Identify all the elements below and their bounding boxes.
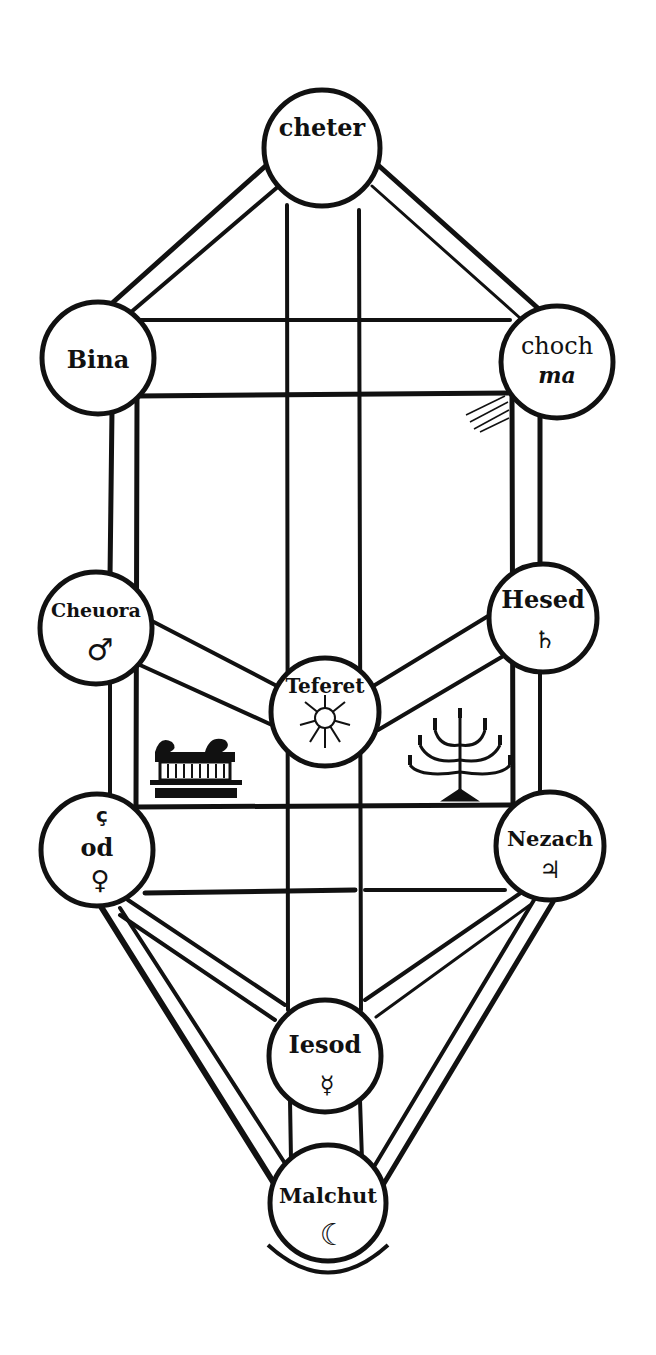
chesed-label: Hesed	[501, 588, 585, 612]
ark-of-covenant-icon	[150, 739, 242, 798]
yesod-label: Iesod	[289, 1033, 362, 1057]
gevurah-circle	[40, 572, 152, 684]
hatching-marks	[466, 396, 509, 432]
chokhmah-label-line2: ma	[538, 364, 576, 386]
netzach-label: Nezach	[507, 828, 593, 849]
saturn-icon: ♄	[534, 628, 556, 652]
mercury-icon: ☿	[320, 1073, 335, 1097]
gevurah-label: Cheuora	[51, 601, 141, 620]
hod-prefix-glyph: ç	[96, 805, 108, 825]
jupiter-icon: ♃	[539, 858, 561, 882]
malkuth-label: Malchut	[279, 1185, 377, 1206]
menorah-icon	[410, 708, 510, 800]
keter-circle	[264, 90, 380, 206]
tiferet-label: Teferet	[285, 676, 364, 696]
keter-label: cheter	[279, 116, 365, 140]
binah-label: Bina	[67, 348, 129, 372]
chokhmah-label: choch	[521, 334, 593, 358]
sun-face-icon	[315, 708, 335, 728]
chesed-circle	[489, 564, 597, 672]
hod-label: od	[81, 836, 114, 860]
venus-icon: ♀	[90, 867, 109, 893]
moon-icon: ☾	[320, 1220, 347, 1250]
mars-icon: ♂	[87, 635, 114, 665]
